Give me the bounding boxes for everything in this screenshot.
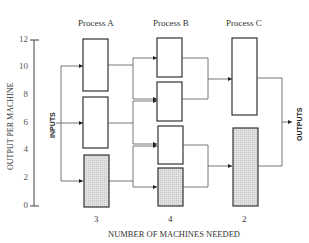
process-a-machines — [83, 39, 109, 207]
process-b-machine-count: 4 — [168, 214, 173, 224]
machine-c1 — [232, 38, 257, 115]
y-tick-10: 10 — [14, 61, 28, 71]
y-tick-8: 8 — [14, 89, 28, 99]
b-to-c-connectors — [182, 58, 232, 187]
process-c-label: Process C — [226, 18, 262, 28]
process-c-machines — [232, 38, 258, 206]
y-tick-6: 6 — [14, 117, 28, 127]
process-a-machine-count: 3 — [94, 214, 99, 224]
machine-b4-shaded — [158, 168, 183, 206]
machine-b1 — [157, 38, 182, 77]
process-flow-diagram — [0, 0, 309, 243]
process-a-label: Process A — [78, 18, 114, 28]
machine-b2 — [157, 82, 182, 121]
process-c-machine-count: 2 — [242, 214, 247, 224]
y-tick-12: 12 — [14, 34, 28, 44]
y-tick-0: 0 — [14, 200, 28, 210]
machine-b3 — [158, 126, 183, 164]
y-tick-2: 2 — [14, 172, 28, 182]
y-axis — [30, 40, 39, 206]
a-to-b-connectors — [108, 58, 157, 187]
outputs-label: OUTPUTS — [296, 108, 303, 141]
process-b-machines — [157, 38, 183, 206]
machine-a1 — [83, 39, 108, 91]
machine-a3-shaded — [84, 155, 109, 207]
machine-c2-shaded — [233, 128, 258, 206]
x-axis-label: NUMBER OF MACHINES NEEDED — [108, 229, 240, 239]
process-b-label: Process B — [153, 18, 189, 28]
inputs-label: INPUTS — [49, 112, 56, 138]
machine-a2 — [83, 97, 108, 148]
outputs-connector — [257, 78, 292, 166]
y-tick-4: 4 — [14, 144, 28, 154]
y-axis-label: OUTPUT PER MACHINE — [6, 83, 15, 170]
inputs-connector — [56, 66, 83, 181]
